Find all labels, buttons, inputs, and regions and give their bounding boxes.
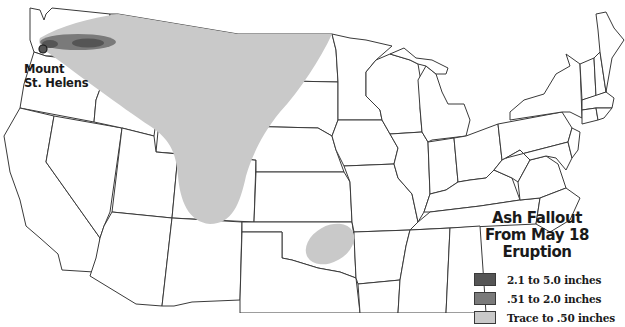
volcano-label-line1: Mount [24, 62, 88, 76]
legend-item-trace: Trace to .50 inches [474, 308, 622, 327]
legend-title-line1: Ash Fallout [452, 210, 622, 227]
legend-label-heavy: 2.1 to 5.0 inches [507, 274, 601, 286]
legend-title: Ash Fallout From May 18 Eruption [452, 210, 622, 261]
legend-title-line2: From May 18 Eruption [452, 227, 622, 261]
legend-label-trace: Trace to .50 inches [507, 312, 615, 324]
swatch-moderate-icon [474, 292, 496, 305]
volcano-marker-icon [39, 45, 47, 53]
legend-item-moderate: .51 to 2.0 inches [474, 289, 622, 308]
legend-items: 2.1 to 5.0 inches .51 to 2.0 inches Trac… [474, 270, 622, 327]
legend: Ash Fallout From May 18 Eruption 2.1 to … [452, 210, 622, 327]
volcano-label-line2: St. Helens [24, 76, 88, 90]
swatch-heavy-icon [474, 273, 496, 286]
swatch-trace-icon [474, 311, 496, 324]
legend-label-moderate: .51 to 2.0 inches [507, 293, 601, 305]
volcano-label: Mount St. Helens [24, 62, 88, 90]
legend-item-heavy: 2.1 to 5.0 inches [474, 270, 622, 289]
